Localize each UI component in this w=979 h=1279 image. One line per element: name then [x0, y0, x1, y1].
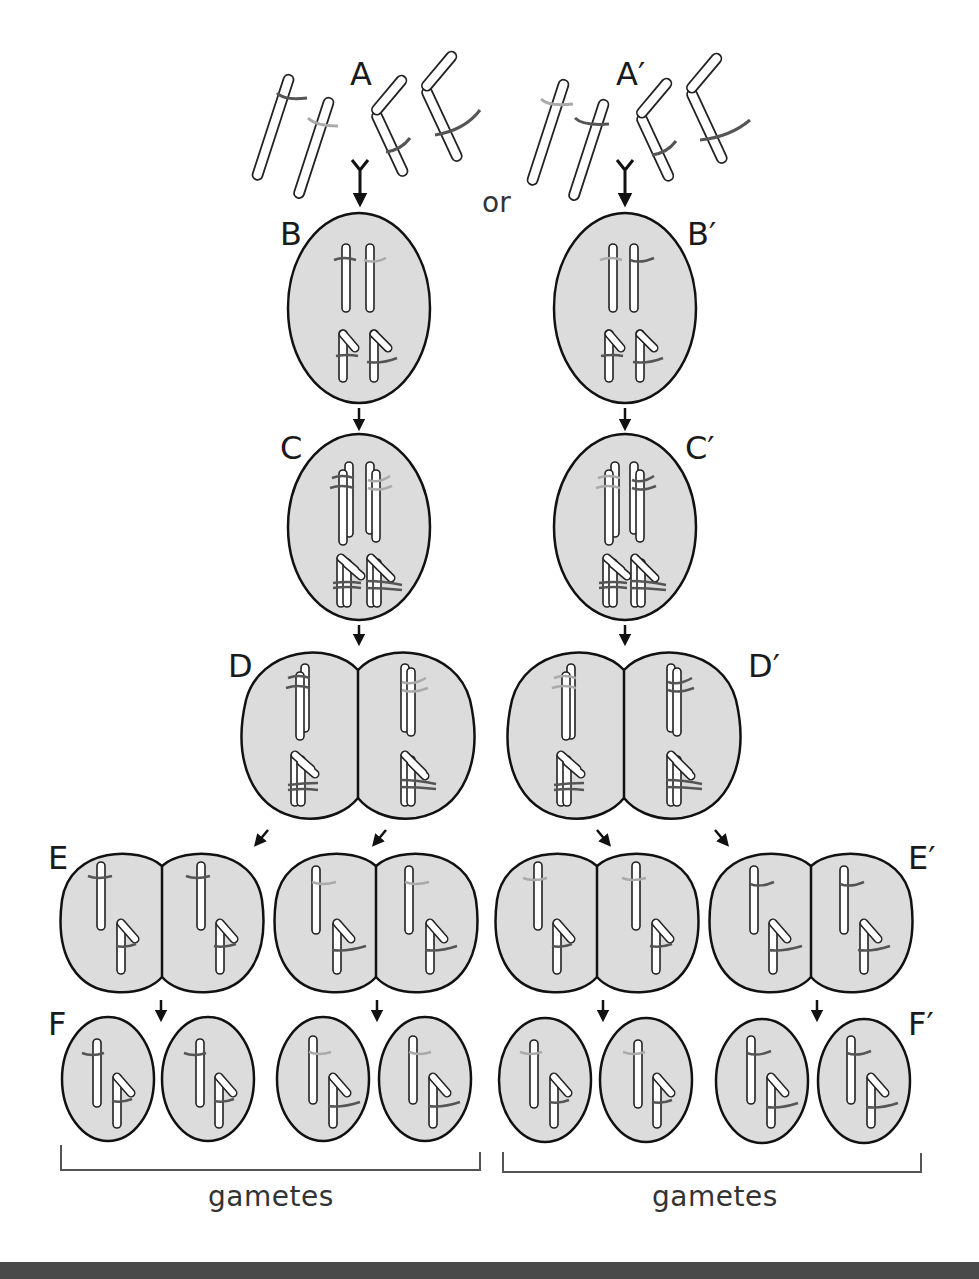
cell-d2 [508, 653, 741, 819]
stage-label-b: B [280, 218, 302, 250]
cell-b2 [554, 213, 696, 403]
cell-c [288, 434, 430, 620]
converge-arrow-icon [617, 160, 633, 200]
diagonal-arrow-icon [258, 830, 268, 842]
gamete-cell [716, 1019, 808, 1143]
gamete-cell [62, 1017, 154, 1141]
stage-label-d2: D′ [748, 650, 780, 682]
stage-label-c2: C′ [685, 432, 715, 464]
gametes-left [62, 1017, 471, 1141]
cell-d [242, 653, 475, 819]
gametes-bracket-left [61, 1145, 480, 1170]
stage-label-a2: A′ [616, 58, 645, 90]
diagonal-arrow-icon [597, 830, 607, 842]
stage-label-d: D [228, 650, 253, 682]
gametes-right [499, 1018, 910, 1143]
diagonal-arrow-icon [715, 830, 725, 842]
gametes-label-right: gametes [652, 1180, 778, 1213]
stage-label-f: F [48, 1008, 66, 1040]
gametes-bracket-right [503, 1152, 921, 1172]
or-connector: or [482, 186, 511, 219]
stage-label-e2: E′ [908, 842, 935, 874]
stage-label-a: A [350, 58, 372, 90]
cell-e2-2 [710, 854, 913, 993]
stage-label-c: C [280, 432, 302, 464]
converge-arrow-icon [352, 160, 368, 200]
stage-label-e: E [48, 842, 68, 874]
gametes-label-left: gametes [208, 1180, 334, 1213]
footer-band [0, 1262, 979, 1279]
gamete-cell [600, 1018, 692, 1142]
gamete-cell [499, 1018, 591, 1142]
cell-e2-1 [496, 854, 699, 993]
cell-b [288, 213, 430, 403]
diagonal-arrow-icon [376, 830, 386, 842]
gamete-cell [162, 1017, 254, 1141]
gamete-cell [818, 1019, 910, 1143]
cell-e-1 [61, 854, 264, 993]
stage-label-f2: F′ [908, 1008, 934, 1040]
cell-c2 [554, 434, 696, 620]
stage-label-b2: B′ [687, 218, 716, 250]
stage-a-chromosomes [251, 48, 498, 200]
gamete-cell [277, 1017, 369, 1141]
gamete-cell [379, 1017, 471, 1141]
cell-e-2 [275, 854, 478, 993]
